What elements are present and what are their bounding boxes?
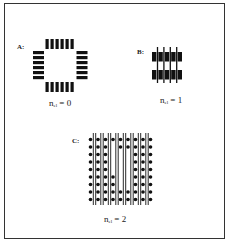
pad-a-right [77, 56, 88, 59]
via-c [104, 145, 108, 149]
via-c [126, 138, 130, 142]
via-c [111, 190, 115, 194]
via-c [134, 153, 138, 157]
pad-b-row2 [158, 70, 162, 80]
pad-a-right [77, 51, 88, 54]
via-c [149, 153, 153, 157]
via-c [96, 175, 100, 179]
via-c [126, 145, 130, 149]
via-c [96, 183, 100, 187]
via-c [104, 190, 108, 194]
pad-a-left [33, 56, 44, 59]
via-c [141, 175, 145, 179]
pad-b-row1 [152, 52, 156, 62]
pad-a-left [33, 71, 44, 74]
via-c [134, 183, 138, 187]
via-c [104, 198, 108, 202]
via-c [134, 160, 138, 164]
via-c [149, 198, 153, 202]
via-c [111, 175, 115, 179]
pad-a-right [77, 66, 88, 69]
via-c [141, 138, 145, 142]
pad-a-top [51, 39, 54, 49]
via-c [96, 198, 100, 202]
pad-b-row2 [171, 70, 175, 80]
pad-a-bottom [66, 82, 69, 92]
pad-a-bottom [56, 82, 59, 92]
pad-b-row1 [158, 52, 162, 62]
via-c [134, 168, 138, 172]
via-c [119, 138, 123, 142]
via-c [104, 153, 108, 157]
via-c [104, 168, 108, 172]
via-c [104, 138, 108, 142]
via-c [89, 138, 93, 142]
diagram-artwork [0, 0, 229, 244]
via-c [96, 138, 100, 142]
pad-a-right [77, 61, 88, 64]
via-c [89, 145, 93, 149]
pad-a-left [33, 61, 44, 64]
via-c [111, 183, 115, 187]
via-c [134, 198, 138, 202]
via-c [134, 175, 138, 179]
via-c [111, 198, 115, 202]
pad-a-top [71, 39, 74, 49]
via-c [141, 198, 145, 202]
pad-a-bottom [71, 82, 74, 92]
pad-a-top [61, 39, 64, 49]
pad-a-bottom [46, 82, 49, 92]
via-c [104, 160, 108, 164]
via-c [134, 190, 138, 194]
pad-a-top [56, 39, 59, 49]
via-c [104, 175, 108, 179]
via-c [149, 138, 153, 142]
via-c [126, 198, 130, 202]
via-c [141, 183, 145, 187]
pad-b-row2 [152, 70, 156, 80]
pad-b-row1 [178, 52, 182, 62]
pad-a-top [46, 39, 49, 49]
via-c [134, 145, 138, 149]
pad-b-row1 [165, 52, 169, 62]
pad-a-left [33, 66, 44, 69]
pad-b-row2 [165, 70, 169, 80]
via-c [104, 183, 108, 187]
via-c [149, 175, 153, 179]
via-c [96, 190, 100, 194]
via-c [89, 198, 93, 202]
via-c [96, 145, 100, 149]
via-c [96, 168, 100, 172]
via-c [149, 168, 153, 172]
via-c [141, 160, 145, 164]
via-c [149, 183, 153, 187]
via-c [96, 160, 100, 164]
via-c [134, 138, 138, 142]
pad-b-row1 [171, 52, 175, 62]
via-c [89, 190, 93, 194]
via-c [141, 190, 145, 194]
via-c [119, 190, 123, 194]
pad-a-left [33, 76, 44, 79]
via-c [89, 183, 93, 187]
pad-a-right [77, 76, 88, 79]
via-c [96, 153, 100, 157]
via-c [149, 145, 153, 149]
via-c [89, 160, 93, 164]
via-c [149, 190, 153, 194]
via-c [126, 190, 130, 194]
pad-a-bottom [61, 82, 64, 92]
pad-a-top [66, 39, 69, 49]
via-c [119, 198, 123, 202]
via-c [149, 160, 153, 164]
via-c [111, 138, 115, 142]
via-c [89, 168, 93, 172]
pad-b-row2 [178, 70, 182, 80]
via-c [141, 153, 145, 157]
via-c [89, 153, 93, 157]
via-c [141, 145, 145, 149]
pad-a-bottom [51, 82, 54, 92]
via-c [141, 168, 145, 172]
pad-a-right [77, 71, 88, 74]
via-c [119, 145, 123, 149]
